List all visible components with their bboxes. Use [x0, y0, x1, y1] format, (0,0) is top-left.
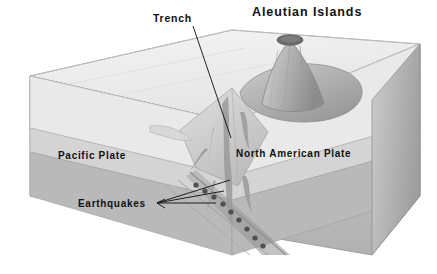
label-earthquakes: Earthquakes — [78, 198, 146, 209]
subduction-block-diagram: Aleutian Islands Trench Pacific Plate No… — [0, 0, 437, 274]
label-aleutian-islands: Aleutian Islands — [252, 5, 362, 19]
label-trench: Trench — [153, 12, 192, 24]
label-pacific-plate: Pacific Plate — [58, 150, 126, 161]
figure-canvas: Aleutian Islands Trench Pacific Plate No… — [0, 0, 437, 274]
label-north-american-plate: North American Plate — [236, 148, 351, 159]
